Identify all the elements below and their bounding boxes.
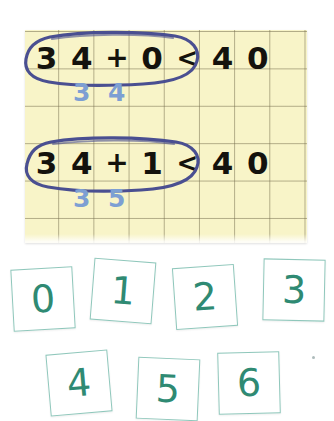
image-speck — [312, 356, 315, 359]
eq1-answer-digit-2: 4 — [99, 79, 134, 107]
number-tile-0[interactable]: 0 — [10, 266, 75, 331]
eq2-answer-digit-2: 5 — [99, 185, 134, 213]
number-tile-2-label: 2 — [192, 277, 219, 317]
number-tile-1-label: 1 — [109, 271, 136, 311]
eq2-digit-2: 4 — [64, 143, 99, 183]
eq2-comparison-sign: < — [170, 143, 205, 183]
eq1-answer: 3 4 — [64, 79, 134, 107]
grid-paper: 3 4 + 0 < 4 0 3 4 3 4 + 1 < 4 — [25, 30, 307, 243]
eq2-answer: 3 5 — [64, 185, 134, 213]
eq2-digit-1: 3 — [29, 143, 64, 183]
eq1-plus-sign: + — [99, 38, 134, 78]
equation-row-2: 3 4 + 1 < 4 0 — [29, 143, 275, 183]
eq2-right-digit-2: 0 — [240, 143, 275, 183]
eq1-digit-1: 3 — [29, 38, 64, 78]
eq2-addend: 1 — [135, 143, 170, 183]
paper-bottom-edge — [25, 234, 307, 243]
number-tile-6[interactable]: 6 — [217, 351, 281, 415]
number-tile-2[interactable]: 2 — [172, 264, 238, 330]
number-tile-3-label: 3 — [282, 271, 307, 309]
number-tile-4-label: 4 — [65, 363, 92, 403]
eq2-answer-digit-1: 3 — [64, 185, 99, 213]
number-tile-5[interactable]: 5 — [136, 357, 201, 421]
eq1-comparison-sign: < — [170, 38, 205, 78]
number-tile-4[interactable]: 4 — [45, 349, 112, 416]
eq1-addend: 0 — [135, 38, 170, 78]
eq2-plus-sign: + — [99, 143, 134, 183]
eq2-right-digit-1: 4 — [205, 143, 240, 183]
eq1-digit-2: 4 — [64, 38, 99, 78]
eq1-answer-digit-1: 3 — [64, 79, 99, 107]
number-tile-3[interactable]: 3 — [262, 258, 325, 321]
number-tile-0-label: 0 — [30, 279, 56, 318]
eq1-right-digit-2: 0 — [240, 38, 275, 78]
eq1-right-digit-1: 4 — [205, 38, 240, 78]
number-tile-6-label: 6 — [236, 364, 261, 403]
number-tile-5-label: 5 — [155, 369, 181, 408]
equation-row-1: 3 4 + 0 < 4 0 — [29, 38, 275, 78]
number-tile-1[interactable]: 1 — [90, 258, 157, 325]
